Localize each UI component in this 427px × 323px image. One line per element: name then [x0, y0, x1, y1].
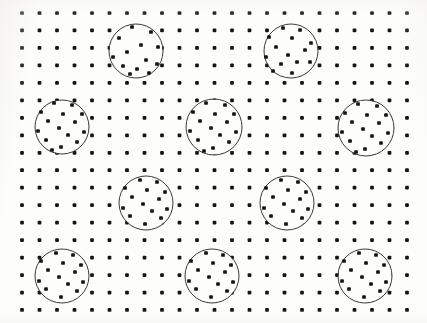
lattice-dot [108, 256, 112, 260]
circle-inner-dot [187, 279, 191, 283]
lattice-dot [230, 81, 234, 85]
lattice-dot [405, 273, 409, 277]
lattice-dot [405, 168, 409, 172]
circle-inner-dot [365, 113, 369, 117]
circle-inner-dot [386, 131, 390, 135]
lattice-dot [318, 291, 322, 295]
lattice-dot [283, 81, 287, 85]
circle-inner-dot [209, 126, 213, 130]
circle-inner-dot [284, 222, 288, 226]
lattice-dot [213, 46, 217, 50]
lattice-dot [318, 64, 322, 68]
lattice-dot [388, 221, 392, 225]
circle-inner-dot [232, 112, 236, 116]
lattice-dot [160, 98, 164, 102]
lattice-dot [300, 11, 304, 15]
lattice-dot [405, 98, 409, 102]
lattice-dot [300, 273, 304, 277]
circle-inner-dot [61, 112, 65, 116]
lattice-dot [125, 151, 129, 155]
circle-inner-dot [130, 25, 134, 29]
circle-inner-dot [308, 60, 312, 64]
lattice-dot [353, 186, 357, 190]
lattice-dot [265, 273, 269, 277]
circle-inner-dot [295, 60, 299, 64]
lattice-dot [143, 168, 147, 172]
lattice-dot [283, 308, 287, 312]
lattice-dot [73, 238, 77, 242]
lattice-dot [73, 98, 77, 102]
circle-inner-dot [282, 202, 286, 206]
lattice-dot [125, 273, 129, 277]
circle-inner-dot [356, 102, 360, 106]
lattice-dot [143, 98, 147, 102]
lattice-dot [265, 98, 269, 102]
lattice-dot [248, 238, 252, 242]
circle-inner-dot [147, 71, 151, 75]
lattice-dot [248, 256, 252, 260]
lattice-dot [90, 186, 94, 190]
circle-inner-dot [144, 58, 148, 62]
lattice-dot [55, 11, 59, 15]
lattice-dot [178, 29, 182, 33]
lattice-dot [143, 151, 147, 155]
lattice-dot [73, 186, 77, 190]
circle-inner-dot [46, 119, 50, 123]
lattice-dot [20, 291, 24, 295]
circle-inner-dot [125, 50, 129, 54]
lattice-dot [405, 308, 409, 312]
lattice-dot [125, 116, 129, 120]
lattice-dot [90, 11, 94, 15]
lattice-dot [335, 308, 339, 312]
lattice-dot [353, 203, 357, 207]
circle-inner-dot [298, 28, 302, 32]
circle-inner-dot [155, 62, 159, 66]
lattice-dot [248, 186, 252, 190]
circle-inner-dot [342, 259, 346, 263]
circle-inner-dot [349, 268, 353, 272]
lattice-dot [213, 186, 217, 190]
lattice-dot [38, 221, 42, 225]
lattice-dot [90, 46, 94, 50]
sampling-circle-3 [35, 100, 89, 154]
circle-inner-dot [59, 295, 63, 299]
lattice-dot [370, 11, 374, 15]
circle-inner-dot [128, 214, 132, 218]
lattice-dot [38, 11, 42, 15]
lattice-dot [213, 81, 217, 85]
lattice-dot [230, 151, 234, 155]
lattice-dot [195, 308, 199, 312]
lattice-dot [125, 11, 129, 15]
lattice-dot [143, 81, 147, 85]
lattice-dot [20, 46, 24, 50]
lattice-dot [318, 81, 322, 85]
lattice-dot [388, 64, 392, 68]
lattice-dot [178, 46, 182, 50]
lattice-dot [90, 116, 94, 120]
lattice-dot [108, 133, 112, 137]
circle-inner-dot [376, 270, 380, 274]
lattice-dot [195, 221, 199, 225]
lattice-dot [178, 133, 182, 137]
circle-inner-dot [379, 141, 383, 145]
circle-interior-mask [186, 250, 239, 303]
lattice-dot [265, 256, 269, 260]
lattice-dot [20, 151, 24, 155]
lattice-dot [38, 98, 42, 102]
lattice-dot [38, 151, 42, 155]
lattice-dot [125, 308, 129, 312]
lattice-dot [195, 186, 199, 190]
lattice-dot [213, 64, 217, 68]
lattice-dot [55, 308, 59, 312]
lattice-dot [405, 29, 409, 33]
circle-inner-dot [377, 121, 381, 125]
lattice-dot [230, 221, 234, 225]
lattice-dot [283, 11, 287, 15]
circle-inner-dot [369, 282, 373, 286]
lattice-dot [248, 308, 252, 312]
lattice-dot [108, 151, 112, 155]
lattice-dot [388, 291, 392, 295]
lattice-dot [213, 308, 217, 312]
lattice-dot [178, 221, 182, 225]
sampling-circle-6 [119, 176, 173, 230]
